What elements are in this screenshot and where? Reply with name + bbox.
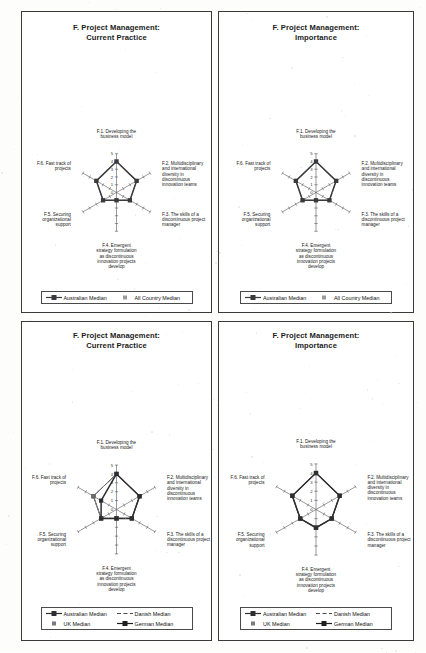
legend-label: Australian Median [64,611,107,617]
scan-speckle [18,97,19,98]
svg-text:business model: business model [101,445,133,450]
legend-row: Australian MedianDanish Median [245,610,387,617]
scan-speckle [13,432,14,433]
radar-plot-bottom-right: 543210F.1. Developing thebusiness modelF… [219,410,413,605]
legend-item[interactable]: UK Median [245,620,316,627]
scan-speckle [381,648,383,650]
scan-speckle [30,318,31,319]
svg-text:projects: projects [55,166,72,171]
legend-label: Danish Median [334,611,370,617]
svg-text:innovation teams: innovation teams [362,182,397,187]
legend-key-icon [316,620,332,627]
svg-text:innovation teams: innovation teams [167,496,202,501]
svg-text:business model: business model [300,134,332,139]
legend-key-icon [117,294,133,301]
chart-title: F. Project Management: Current Practice [22,331,211,351]
scan-speckle [420,7,421,8]
legend-key-icon [117,610,133,617]
chart-panel-top-right: F. Project Management: Importance 543210… [218,11,414,313]
scan-speckle [88,2,89,3]
legend-item[interactable]: All Country Median [117,294,188,301]
svg-text:5: 5 [310,151,313,156]
legend-item[interactable]: UK Median [46,620,117,627]
legend-row: Australian MedianAll Country Median [46,294,188,301]
chart-panel-bottom-right: F. Project Management: Importance 543210… [218,321,414,641]
svg-text:projects: projects [254,166,271,171]
legend-label: Australian Median [263,611,306,617]
legend-item[interactable]: Australian Median [46,610,117,617]
legend-item[interactable]: Danish Median [117,610,188,617]
scan-speckle [416,402,417,403]
scan-speckle [212,449,213,450]
scan-speckle [6,544,7,545]
legend-item[interactable]: Australian Median [245,610,316,617]
legend-item[interactable]: German Median [117,620,188,627]
svg-text:develop: develop [108,587,125,592]
scan-speckle [306,647,308,649]
scan-speckle [14,149,15,150]
svg-text:4: 4 [310,159,313,164]
chart-panel-top-left: F. Project Management: Current Practice … [21,11,212,313]
legend-key-icon [46,294,62,301]
svg-text:manager: manager [167,542,186,547]
scan-speckle [215,262,217,264]
scan-speckle [115,9,116,10]
legend-item[interactable]: Danish Median [316,610,387,617]
svg-text:projects: projects [248,480,265,485]
legend-key-icon [46,620,62,627]
svg-text:5: 5 [310,462,313,467]
chart-title: F. Project Management: Importance [219,331,413,351]
svg-text:2: 2 [111,175,114,180]
scan-speckle [213,399,214,400]
svg-text:2: 2 [310,175,313,180]
scan-speckle [415,652,416,653]
legend-label: Danish Median [135,611,171,617]
svg-text:5: 5 [111,463,114,468]
chart-title: F. Project Management: Importance [219,23,413,43]
svg-text:business model: business model [101,134,133,139]
legend-row: Australian MedianDanish Median [46,610,188,617]
legend-label: UK Median [263,621,290,627]
legend-label: UK Median [64,621,91,627]
svg-text:manager: manager [367,543,386,548]
chart-panel-bottom-left: F. Project Management: Current Practice … [21,321,212,641]
svg-text:4: 4 [111,472,114,477]
legend-label: Australian Median [263,295,306,301]
radar-plot-top-right: 543210F.1. Developing thebusiness modelF… [219,108,413,273]
svg-text:innovation teams: innovation teams [367,496,402,501]
legend-item[interactable]: Australian Median [245,294,316,301]
svg-text:4: 4 [310,471,313,476]
svg-text:develop: develop [308,588,325,593]
svg-text:2: 2 [111,489,114,494]
svg-text:innovation teams: innovation teams [162,182,197,187]
svg-text:support: support [51,542,67,547]
legend-key-icon [245,620,261,627]
svg-text:projects: projects [50,480,67,485]
svg-text:support: support [255,222,271,227]
legend-row: UK MedianGerman Median [46,620,188,627]
svg-text:support: support [249,543,265,548]
svg-text:5: 5 [111,151,114,156]
svg-text:develop: develop [308,264,325,269]
chart-legend: Australian MedianDanish MedianUK MedianG… [41,607,193,630]
scan-speckle [160,8,161,9]
scan-speckle [211,646,212,647]
svg-text:1: 1 [310,182,313,187]
svg-text:manager: manager [162,222,181,227]
legend-item[interactable]: German Median [316,620,387,627]
legend-key-icon [46,610,62,617]
legend-row: Australian MedianAll Country Median [245,294,387,301]
svg-text:support: support [56,222,72,227]
legend-item[interactable]: Australian Median [46,294,117,301]
svg-text:1: 1 [111,182,114,187]
legend-label: German Median [135,621,174,627]
scan-speckle [145,315,146,316]
legend-label: German Median [334,621,373,627]
radar-plot-top-left: 543210F.1. Developing thebusiness modelF… [22,108,211,273]
scan-speckle [395,650,397,652]
svg-text:manager: manager [362,222,381,227]
svg-text:3: 3 [310,480,313,485]
legend-item[interactable]: All Country Median [316,294,387,301]
svg-text:4: 4 [111,159,114,164]
